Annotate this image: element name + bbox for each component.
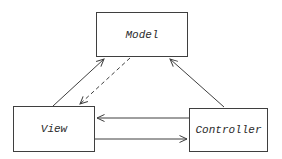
view-label: View <box>41 123 67 135</box>
model-node: Model <box>96 12 188 57</box>
edge-view-to-model <box>53 59 104 106</box>
mvc-diagram: Model View Controller <box>0 0 282 159</box>
edge-controller-to-model <box>170 59 224 107</box>
controller-label: Controller <box>195 124 261 136</box>
view-node: View <box>13 106 95 152</box>
model-label: Model <box>125 29 158 41</box>
controller-node: Controller <box>189 108 268 152</box>
edge-model-to-view-dashed <box>80 58 130 104</box>
